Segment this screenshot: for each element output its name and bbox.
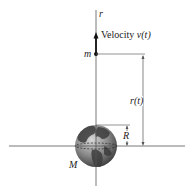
velocity-symbol: v(t): [137, 29, 151, 40]
distance-label: r(t): [130, 96, 143, 106]
small-mass-label: m: [84, 49, 91, 59]
earth-mass-label: M: [69, 160, 77, 170]
radius-label: R: [123, 131, 129, 141]
velocity-arrow: [94, 32, 99, 54]
velocity-label: Velocity v(t): [101, 30, 151, 40]
earth-escape-velocity-diagram: [0, 0, 188, 193]
r-axis-label: r: [99, 9, 103, 19]
velocity-text: Velocity: [101, 29, 137, 40]
